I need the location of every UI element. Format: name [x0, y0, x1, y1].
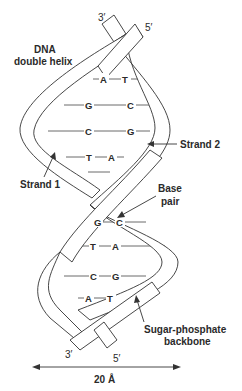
base-pair-2-left: G: [85, 100, 92, 111]
title-line-2: double helix: [14, 56, 73, 67]
base-pair-arrow-line: [122, 196, 156, 215]
strand-1-lower: [38, 252, 82, 338]
base-pair-label-line-1: Base: [158, 183, 182, 194]
dna-diagram: A T G C C G T A G C T A C G A T DNA doub…: [0, 0, 242, 391]
dna-helix-svg: A T G C C G T A G C T A C G A T DNA doub…: [0, 0, 242, 391]
base-pair-3-right: G: [127, 126, 134, 137]
strand-1-label: Strand 1: [20, 179, 60, 190]
base-pair-label-line-2: pair: [161, 196, 179, 207]
base-pair-7-left: C: [90, 271, 97, 282]
base-pair-8-left: A: [85, 293, 92, 304]
base-pair-5-right: C: [116, 217, 123, 228]
base-pair-4-left: T: [86, 152, 92, 163]
base-pair-8-right: T: [107, 293, 113, 304]
base-pair-7-right: G: [112, 271, 119, 282]
backbone-label-line-2: backbone: [164, 336, 211, 347]
strand-2-label: Strand 2: [180, 139, 220, 150]
backbone-label-line-1: Sugar-phosphate: [144, 324, 227, 335]
end-label-top-3prime: 3′: [98, 12, 106, 23]
width-right-arrowhead-icon: [173, 364, 181, 370]
end-label-bottom-5prime: 5′: [113, 353, 121, 364]
title-line-1: DNA: [34, 44, 56, 55]
end-label-bottom-3prime: 3′: [65, 349, 73, 360]
width-label: 20 Å: [94, 373, 115, 385]
base-pair-5-left: G: [94, 217, 101, 228]
base-pair-3-left: C: [85, 126, 92, 137]
end-label-top-5prime: 5′: [145, 22, 153, 33]
base-pair-1-left: A: [100, 74, 107, 85]
base-pair-1-right: T: [122, 74, 128, 85]
base-pair-4-right: A: [108, 152, 115, 163]
base-pair-6-left: T: [90, 241, 96, 252]
base-pair-2-right: C: [127, 100, 134, 111]
width-left-arrowhead-icon: [32, 364, 40, 370]
base-pair-6-right: A: [112, 241, 119, 252]
